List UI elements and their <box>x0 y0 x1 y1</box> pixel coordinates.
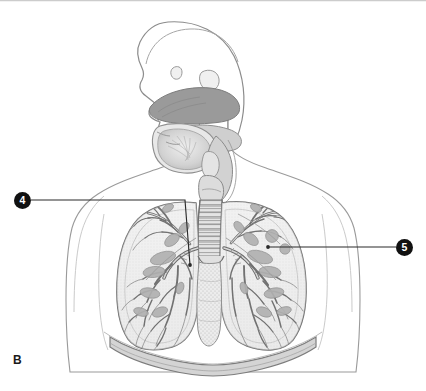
callout-marker-5[interactable]: 5 <box>396 239 413 256</box>
mediastinum <box>197 262 222 346</box>
anatomy-figure-panel: 4 5 B <box>0 0 426 391</box>
leader-endpoint-5 <box>266 245 270 249</box>
epiglottis <box>202 151 219 178</box>
leader-endpoint-4 <box>188 263 192 267</box>
callout-marker-4[interactable]: 4 <box>14 192 31 209</box>
panel-label: B <box>13 354 22 366</box>
respiratory-system-illustration <box>0 0 426 391</box>
